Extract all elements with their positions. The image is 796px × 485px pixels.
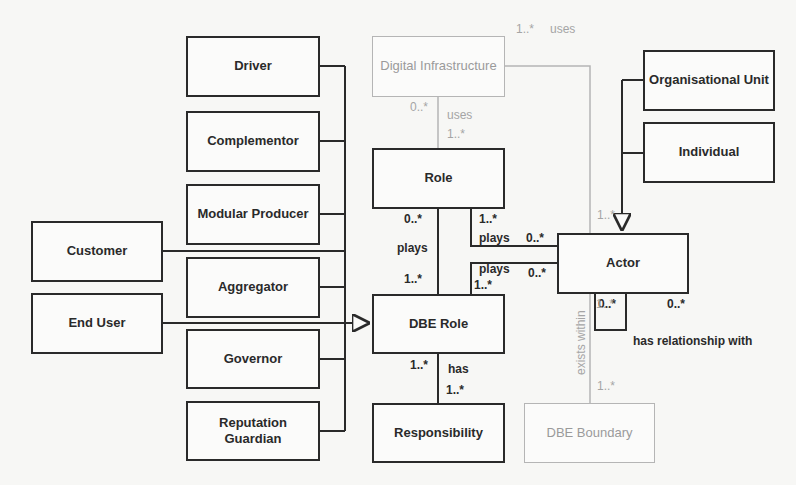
class-label: Actor (606, 255, 640, 271)
class-actor: Actor (557, 233, 689, 294)
class-individual: Individual (643, 122, 775, 183)
class-label: Responsibility (394, 425, 483, 441)
multiplicity-label: 1..* (446, 383, 464, 397)
association-label-plays: plays (397, 241, 428, 255)
class-governor: Governor (186, 329, 320, 389)
multiplicity-label: 0..* (667, 297, 685, 311)
multiplicity-label: 1..* (474, 278, 492, 292)
class-label: DBE Boundary (547, 425, 633, 441)
class-label: Customer (67, 243, 128, 259)
association-label-plays: plays (479, 231, 510, 245)
association-label-has: has (448, 362, 469, 376)
uml-diagram: Driver Complementor Modular Producer Agg… (0, 0, 796, 485)
class-label: Driver (234, 58, 272, 74)
class-label: End User (68, 315, 125, 331)
class-dbe-role: DBE Role (372, 294, 505, 354)
class-complementor: Complementor (186, 111, 320, 172)
multiplicity-label: 0..* (410, 100, 428, 114)
class-role: Role (372, 148, 505, 209)
class-label: Organisational Unit (649, 72, 769, 88)
class-responsibility: Responsibility (372, 403, 505, 463)
class-label: Complementor (207, 133, 299, 149)
class-label: Aggregator (218, 279, 288, 295)
class-customer: Customer (31, 221, 163, 282)
class-aggregator: Aggregator (186, 257, 320, 318)
multiplicity-label: 1..* (404, 272, 422, 286)
class-label: DBE Role (409, 316, 468, 332)
association-label-exists-within: exists within (574, 310, 588, 375)
class-label: Modular Producer (197, 206, 308, 222)
class-label: Digital Infrastructure (380, 58, 496, 74)
multiplicity-label: 0..* (528, 266, 546, 280)
multiplicity-label: 0..* (526, 231, 544, 245)
class-label: Reputation Guardian (208, 415, 298, 448)
multiplicity-label: 1..* (447, 127, 465, 141)
multiplicity-label: 1..* (597, 208, 615, 222)
class-dbe-boundary: DBE Boundary (524, 403, 655, 463)
class-organisational-unit: Organisational Unit (643, 50, 775, 111)
association-label-plays: plays (479, 262, 510, 276)
multiplicity-label: 1..* (410, 358, 428, 372)
multiplicity-label: 1..* (516, 22, 534, 36)
association-label-uses: uses (550, 22, 575, 36)
association-label-has-relationship-with: has relationship with (633, 334, 752, 348)
multiplicity-label: 1..* (596, 297, 614, 311)
class-label: Governor (224, 351, 283, 367)
class-driver: Driver (186, 36, 320, 97)
class-label: Role (424, 170, 452, 186)
association-label-uses: uses (447, 108, 472, 122)
multiplicity-label: 1..* (479, 212, 497, 226)
class-modular-producer: Modular Producer (186, 184, 320, 245)
class-digital-infrastructure: Digital Infrastructure (372, 36, 505, 97)
class-reputation-guardian: Reputation Guardian (186, 401, 320, 461)
multiplicity-label: 0..* (404, 212, 422, 226)
class-end-user: End User (31, 293, 163, 354)
multiplicity-label: 1..* (597, 379, 615, 393)
class-label: Individual (679, 144, 740, 160)
